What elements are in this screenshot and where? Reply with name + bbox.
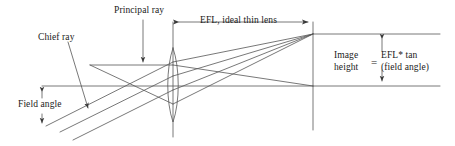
- ray-axial-upper-refracted: [173, 65, 313, 86]
- image-height-line2: height: [334, 62, 358, 74]
- equals-sign: =: [371, 57, 377, 68]
- chief-ray-label: Chief ray: [38, 32, 75, 43]
- formula-line1: EFL* tan: [381, 50, 429, 62]
- image-height-label: Image height: [334, 50, 358, 73]
- ray-oblique-2-refracted: [173, 34, 313, 90]
- ray-oblique-1-incoming: [46, 62, 173, 126]
- ray-oblique-1-refracted: [173, 34, 313, 62]
- ray-chief-incoming: [60, 76, 173, 132]
- image-height-formula: EFL* tan (field angle): [381, 50, 429, 73]
- figure-canvas: Chief ray Principal ray EFL, ideal thin …: [0, 0, 455, 146]
- ray-oblique-2-incoming: [73, 90, 173, 140]
- efl-dimension-label: EFL, ideal thin lens: [200, 15, 277, 26]
- image-height-line1: Image: [334, 50, 358, 62]
- ray-lower-incoming-extra: [90, 65, 173, 104]
- principal-ray-label: Principal ray: [114, 5, 164, 16]
- field-angle-label: Field angle: [18, 99, 62, 110]
- chief-ray-leader: [68, 42, 88, 108]
- ray-upper-cross: [173, 34, 313, 104]
- ray-chief-refracted: [173, 34, 313, 76]
- formula-line2: (field angle): [381, 62, 429, 74]
